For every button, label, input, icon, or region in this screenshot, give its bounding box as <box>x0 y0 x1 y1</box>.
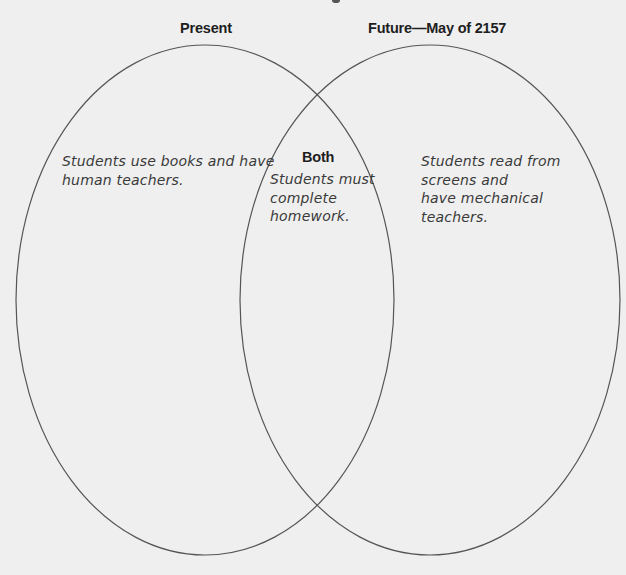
both-label: Both <box>302 149 334 165</box>
future-circle <box>240 45 620 555</box>
future-description: Students read from screens and have mech… <box>421 152 561 226</box>
future-text-line: have mechanical <box>421 189 561 208</box>
future-text-line: teachers. <box>421 208 561 227</box>
present-circle <box>16 45 394 555</box>
present-description: Students use books and have human teache… <box>62 152 275 189</box>
both-text-line: complete <box>270 189 375 208</box>
both-text-line: homework. <box>270 207 375 226</box>
both-text-line: Students must <box>270 170 375 189</box>
present-text-line: human teachers. <box>62 171 275 190</box>
venn-circles <box>0 0 626 575</box>
both-description: Students must complete homework. <box>270 170 375 226</box>
future-label: Future—May of 2157 <box>368 20 506 36</box>
future-text-line: Students read from <box>421 152 561 171</box>
venn-diagram: Present Future—May of 2157 Both Students… <box>0 0 626 575</box>
present-label: Present <box>180 20 232 36</box>
present-text-line: Students use books and have <box>62 152 275 171</box>
future-text-line: screens and <box>421 171 561 190</box>
